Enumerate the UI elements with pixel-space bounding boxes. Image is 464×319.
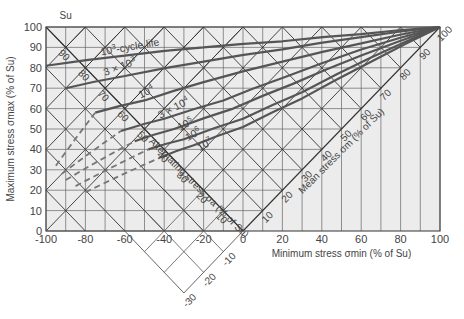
- y-tick-label: 50: [30, 123, 42, 135]
- x-tick-label: -20: [196, 233, 212, 245]
- y-tick-label: 80: [30, 62, 42, 74]
- x-tick-label: 40: [316, 233, 328, 245]
- y-tick-label: 60: [30, 103, 42, 115]
- y-tick-label: 0: [36, 225, 42, 237]
- x-tick-label: -60: [117, 233, 133, 245]
- goodman-diagram: -100-80-60-40-20020406080100010203040506…: [0, 0, 464, 319]
- su-marker-label: Su: [60, 10, 72, 21]
- negative-mean-axis-left: [125, 231, 184, 293]
- x-tick-label: 20: [276, 233, 288, 245]
- y-tick-label: 30: [30, 164, 42, 176]
- x-tick-label: 60: [355, 233, 367, 245]
- x-tick-label: -80: [77, 233, 93, 245]
- x-tick-label: 80: [394, 233, 406, 245]
- x-tick-label: 100: [431, 233, 449, 245]
- negative-mean-axis: [184, 231, 243, 293]
- x-axis-title: Minimum stress σmin (% of Su): [272, 248, 412, 259]
- y-tick-label: 20: [30, 184, 42, 196]
- y-tick-label: 40: [30, 143, 42, 155]
- y-axis-title: Maximum stress σmax (% of Su): [5, 56, 16, 201]
- y-tick-label: 70: [30, 82, 42, 94]
- x-tick-label: -40: [156, 233, 172, 245]
- y-tick-label: 100: [24, 21, 42, 33]
- negative-mean-tick-label: -30: [180, 291, 198, 309]
- y-tick-label: 10: [30, 205, 42, 217]
- y-tick-label: 90: [30, 41, 42, 53]
